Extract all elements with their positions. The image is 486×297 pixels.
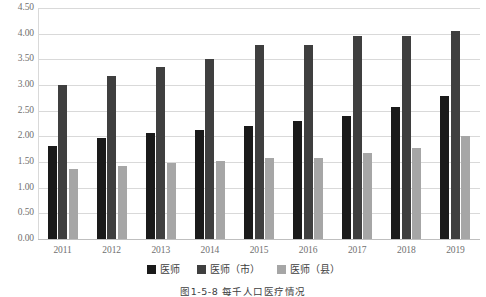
bar (69, 169, 78, 239)
bar (440, 96, 449, 239)
legend-label: 医师（市） (210, 264, 260, 275)
y-axis-tick-label: 4.00 (0, 29, 34, 39)
x-axis-tick-label: 2014 (185, 245, 234, 256)
bar (304, 45, 313, 239)
gridline (38, 239, 480, 240)
chart-legend: 医师医师（市）医师（县） (0, 264, 486, 275)
bar (402, 36, 411, 239)
bar (118, 166, 127, 239)
bar (293, 121, 302, 239)
y-axis-tick-label: 0.00 (0, 234, 34, 244)
y-axis-tick-label: 1.00 (0, 183, 34, 193)
bar (244, 126, 253, 239)
bar (314, 158, 323, 239)
y-axis-tick-label: 2.50 (0, 106, 34, 116)
legend-item[interactable]: 医师 (147, 264, 180, 275)
bar (451, 31, 460, 239)
bar (391, 107, 400, 239)
bars-layer (38, 8, 480, 239)
legend-swatch-icon (147, 265, 156, 274)
x-axis-tick-label: 2015 (234, 245, 283, 256)
legend-swatch-icon (197, 265, 206, 274)
x-axis-tick-label: 2012 (87, 245, 136, 256)
bar (255, 45, 264, 239)
bar-group (244, 8, 274, 239)
y-axis-tick-label: 0.50 (0, 208, 34, 218)
legend-item[interactable]: 医师（县） (277, 264, 340, 275)
bar (265, 158, 274, 239)
bar (156, 67, 165, 239)
bar-group (195, 8, 225, 239)
bar (412, 148, 421, 239)
bar (216, 161, 225, 239)
legend-label: 医师（县） (290, 264, 340, 275)
bar (342, 116, 351, 239)
y-axis-tick-label: 2.00 (0, 131, 34, 141)
bar (58, 85, 67, 239)
x-axis-tick-label: 2016 (284, 245, 333, 256)
bar (48, 146, 57, 239)
bar-group (293, 8, 323, 239)
bar-group (146, 8, 176, 239)
x-axis-tick-label: 2013 (136, 245, 185, 256)
chart-container: 0.000.501.001.502.002.503.003.504.004.50… (0, 0, 486, 297)
bar (167, 163, 176, 239)
plot-area (38, 8, 480, 239)
legend-item[interactable]: 医师（市） (197, 264, 260, 275)
x-axis-tick-label: 2019 (431, 245, 480, 256)
legend-label: 医师 (160, 264, 180, 275)
bar (363, 153, 372, 239)
bar-group (48, 8, 78, 239)
bar (205, 59, 214, 239)
bar (107, 76, 116, 239)
bar-group (97, 8, 127, 239)
bar-group (440, 8, 470, 239)
bar (461, 136, 470, 239)
bar (97, 138, 106, 239)
x-axis-tick-label: 2018 (382, 245, 431, 256)
legend-swatch-icon (277, 265, 286, 274)
y-axis-tick-label: 1.50 (0, 157, 34, 167)
y-axis-tick-label: 3.50 (0, 54, 34, 64)
x-axis-labels: 201120122013201420152016201720182019 (38, 245, 480, 259)
bar-group (391, 8, 421, 239)
bar (146, 133, 155, 239)
y-axis-labels: 0.000.501.001.502.002.503.003.504.004.50 (0, 8, 38, 239)
y-axis-tick-label: 4.50 (0, 3, 34, 13)
x-axis-tick-label: 2011 (38, 245, 87, 256)
x-axis-tick-label: 2017 (333, 245, 382, 256)
bar (195, 130, 204, 239)
figure-caption: 图1-5-8 每千人口医疗情况 (0, 286, 486, 297)
bar (353, 36, 362, 239)
bar-group (342, 8, 372, 239)
y-axis-tick-label: 3.00 (0, 80, 34, 90)
